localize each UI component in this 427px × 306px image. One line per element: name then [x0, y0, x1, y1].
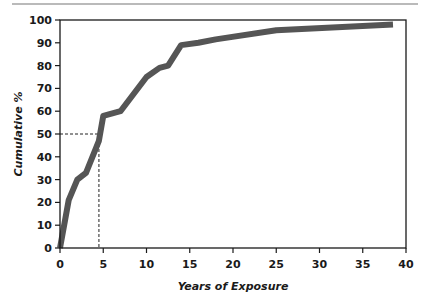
y-tick-label: 80: [37, 60, 53, 73]
cumulative-exposure-chart: 01020304050607080901000510152025303540 Y…: [0, 0, 427, 306]
y-tick-label: 0: [44, 242, 52, 255]
y-tick-label: 60: [37, 105, 53, 118]
data-line: [60, 25, 393, 248]
x-tick-label: 20: [225, 258, 241, 271]
x-tick-label: 25: [269, 258, 284, 271]
plot-area: [60, 25, 393, 248]
x-tick-label: 30: [312, 258, 328, 271]
axes: 01020304050607080901000510152025303540: [29, 14, 414, 271]
y-tick-label: 90: [37, 37, 53, 50]
x-axis-title: Years of Exposure: [178, 280, 289, 293]
y-tick-label: 50: [37, 128, 53, 141]
x-tick-label: 35: [355, 258, 370, 271]
x-tick-label: 40: [398, 258, 414, 271]
y-tick-label: 70: [37, 82, 53, 95]
y-tick-label: 40: [37, 151, 53, 164]
y-axis-title: Cumulative %: [12, 92, 25, 177]
x-tick-label: 5: [99, 258, 107, 271]
x-tick-label: 0: [56, 258, 64, 271]
y-tick-label: 20: [37, 196, 53, 209]
y-tick-label: 30: [37, 174, 53, 187]
y-tick-label: 100: [29, 14, 52, 27]
x-tick-label: 15: [182, 258, 197, 271]
x-tick-label: 10: [139, 258, 155, 271]
plot-frame: [60, 20, 406, 248]
y-tick-label: 10: [37, 219, 53, 232]
